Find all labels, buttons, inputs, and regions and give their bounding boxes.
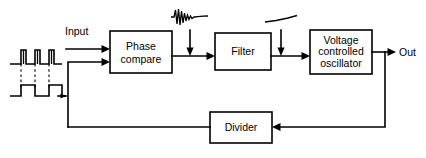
divider-label: Divider (225, 121, 258, 133)
square-wave-waveform (10, 85, 66, 96)
pll-block-diagram: Phase compare Filter (0, 0, 426, 158)
diagram-canvas: Phase compare Filter (0, 0, 426, 158)
filter-to-vco-wire (271, 52, 310, 60)
block-filter[interactable]: Filter (215, 33, 271, 70)
noisy-waveform-pointer-arrow (186, 30, 193, 56)
feedback-wire-into-phase-compare (68, 58, 110, 127)
block-phase-compare[interactable]: Phase compare (110, 31, 172, 73)
input-wire (66, 45, 110, 53)
phase-compare-to-filter-wire (172, 52, 215, 60)
waveform-to-loop-arrow (58, 93, 66, 98)
phase-compare-label-line1: Phase (126, 40, 156, 52)
output-label: Out (399, 46, 416, 58)
pulse-train-waveform (10, 50, 62, 64)
output-wire (372, 48, 396, 56)
vco-label-line3: oscillator (320, 57, 362, 69)
block-divider[interactable]: Divider (210, 112, 272, 143)
phase-compare-label-line2: compare (121, 53, 162, 65)
input-label: Input (65, 25, 88, 37)
smooth-dc-waveform (265, 16, 297, 23)
smooth-waveform-pointer-arrow (277, 30, 284, 56)
filter-label: Filter (231, 45, 255, 57)
vco-label-line1: Voltage (323, 34, 358, 46)
noisy-ringing-waveform (171, 9, 208, 25)
vco-label-line2: controlled (318, 45, 364, 57)
block-voltage-controlled-oscillator[interactable]: Voltage controlled oscillator (310, 30, 372, 74)
